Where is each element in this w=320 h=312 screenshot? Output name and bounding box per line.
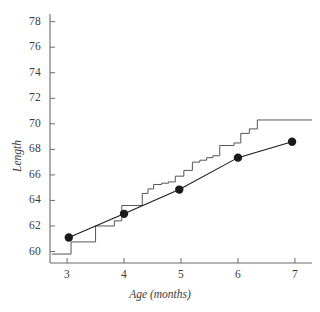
data-point-marker <box>175 185 183 193</box>
y-tick-label: 60 <box>19 245 41 257</box>
y-tick-label: 62 <box>19 219 41 231</box>
x-tick-label: 6 <box>228 268 248 280</box>
y-axis-ticks <box>50 22 55 252</box>
y-axis-title: Length <box>11 126 23 186</box>
x-tick-label: 3 <box>57 268 77 280</box>
chart-plot-area <box>0 0 320 312</box>
x-axis-title: Age (months) <box>0 288 320 300</box>
chart-figure: 60626466687072747678 34567 Length Age (m… <box>0 0 320 312</box>
x-tick-label: 5 <box>171 268 191 280</box>
x-tick-label: 4 <box>114 268 134 280</box>
axes-group <box>50 14 312 263</box>
y-tick-label: 78 <box>19 15 41 27</box>
x-axis-ticks <box>67 258 295 263</box>
y-tick-label: 64 <box>19 193 41 205</box>
y-tick-label: 76 <box>19 40 41 52</box>
y-tick-label: 74 <box>19 66 41 78</box>
data-point-marker <box>65 233 73 241</box>
x-tick-label: 7 <box>285 268 305 280</box>
data-point-marker <box>288 137 296 145</box>
data-point-marker <box>120 210 128 218</box>
data-point-marker <box>234 153 242 161</box>
y-tick-label: 72 <box>19 91 41 103</box>
